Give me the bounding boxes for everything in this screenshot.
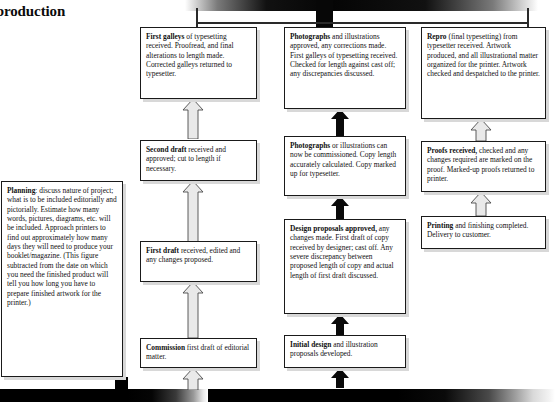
box-printing[interactable]: Printing and finishing completed. Delive… (421, 216, 546, 249)
arrow-up-first-draft-to-second-draft (182, 181, 204, 244)
box-proofs-received[interactable]: Proofs received, checked and any changes… (421, 141, 546, 192)
arrow-up-printing-to-proofs (470, 192, 492, 216)
arrow-up-proofs-to-repro (470, 119, 492, 141)
top-rail-crossbar-left (196, 22, 344, 24)
arrow-up-commission-to-first-draft (182, 282, 204, 338)
box-repro-lead: Repro (427, 32, 447, 41)
box-design-proposals-lead: Design proposals approved, (290, 224, 377, 233)
bottom-rail-left-black (0, 389, 128, 402)
box-second-draft-lead: Second draft (146, 145, 186, 154)
box-photographs-approved[interactable]: Photographs and illustrations approved, … (284, 27, 406, 109)
box-first-galleys-lead: First galleys (146, 32, 184, 41)
arrow-solid-photographs-commissioned-to-approved (330, 109, 350, 139)
arrow-solid-initial-design-to-design-proposals (330, 314, 350, 336)
arrow-up-second-draft-to-first-galleys (182, 99, 204, 139)
box-first-galleys[interactable]: First galleys of typesetting received. P… (140, 27, 257, 99)
bottom-rail-fade-right (398, 389, 555, 402)
box-photographs-commissioned-lead: Photographs (290, 141, 330, 150)
top-rail-right-segment (333, 0, 538, 11)
arrow-solid-design-proposals-to-photographs (330, 196, 350, 220)
bottom-rail-fade-left (128, 389, 208, 402)
box-first-draft-lead: First draft (146, 246, 179, 255)
box-first-draft[interactable]: First draft received, edited and any cha… (140, 241, 257, 282)
box-planning[interactable]: Planning: discuss nature of project; wha… (1, 181, 123, 377)
diagram-canvas: cal production ule First galleys of type… (0, 0, 555, 405)
arrow-up-bottom-to-commission (182, 368, 204, 390)
arrow-solid-bottom-to-initial-design (330, 368, 350, 388)
box-commission-lead: Commission (146, 343, 185, 352)
page-title-line-1: cal production (0, 2, 184, 20)
bottom-rail-center-black (208, 389, 398, 402)
box-repro[interactable]: Repro (final typesetting) from typesette… (421, 27, 546, 119)
box-photographs-approved-lead: Photographs (290, 32, 330, 41)
box-initial-design-lead: Initial design (290, 340, 331, 349)
box-planning-text: : discuss nature of project; what is to … (7, 186, 117, 307)
box-commission[interactable]: Commission first draft of editorial matt… (140, 338, 257, 368)
box-design-proposals[interactable]: Design proposals approved, any changes m… (284, 219, 406, 314)
box-initial-design[interactable]: Initial design and illustration proposal… (284, 335, 406, 368)
top-rail-crossbar-right (343, 22, 529, 24)
box-second-draft[interactable]: Second draft received and approved; cut … (140, 140, 257, 181)
box-printing-lead: Printing (427, 221, 453, 230)
box-photographs-commissioned[interactable]: Photographs or illustrations can now be … (284, 136, 406, 196)
top-rail-left-segment (185, 0, 333, 11)
box-proofs-received-lead: Proofs received, (427, 146, 477, 155)
box-planning-lead: Planning (7, 186, 35, 195)
